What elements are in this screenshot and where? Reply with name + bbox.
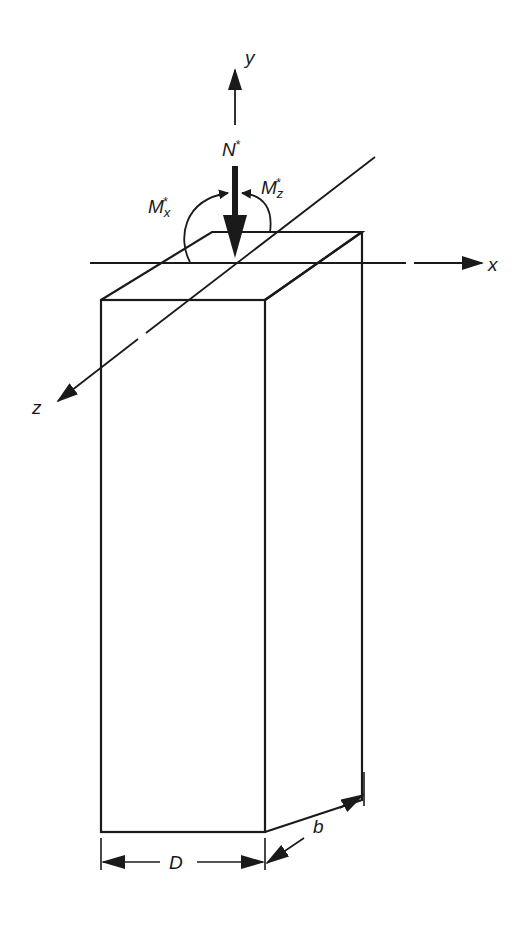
z-axis-label: z xyxy=(32,398,42,417)
y-axis-label: y xyxy=(245,48,255,67)
moment-x-arc xyxy=(184,193,228,262)
moment-z-label: Mz* xyxy=(261,178,281,197)
diagram-drawing xyxy=(0,0,525,926)
top-face-edge xyxy=(265,232,362,300)
breadth-label: b xyxy=(313,817,324,836)
z-axis xyxy=(58,157,375,401)
moment-z-arc xyxy=(242,193,271,232)
depth-label: D xyxy=(169,853,183,872)
dimension-depth xyxy=(101,838,265,870)
x-axis-label: x xyxy=(488,255,498,274)
axial-load-arrow xyxy=(223,166,247,258)
moment-x-label: Mx* xyxy=(148,197,168,216)
column-outline xyxy=(101,232,362,832)
axial-load-label: N* xyxy=(222,140,240,159)
column-diagram: y x z N* Mx* Mz* D b xyxy=(0,0,525,926)
